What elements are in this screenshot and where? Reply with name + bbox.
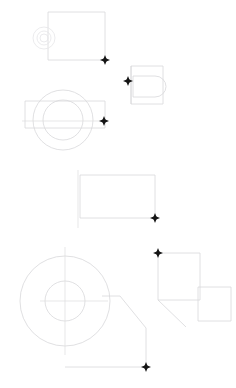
- d-shaped-end-arc: [155, 76, 166, 97]
- view-two-overlapping-rectangles-with-diagonal[interactable]: [158, 253, 231, 327]
- hub-flange-outline: [65, 296, 146, 367]
- snap-point-top-rect-corner[interactable]: [100, 55, 110, 65]
- d-slot-outer-outline: [131, 66, 163, 104]
- view-rectangular-plate-with-concentric-bore[interactable]: [33, 12, 105, 60]
- d-slot-inner-outline: [133, 76, 155, 97]
- plate-outline: [48, 12, 105, 60]
- boss-inner-circle: [43, 100, 83, 140]
- view-large-circle-with-inner-bore-and-tangent-flange[interactable]: [20, 247, 146, 367]
- snap-point-bottom-right-rect-corner[interactable]: [153, 248, 163, 258]
- boss-outer-circle: [33, 90, 93, 150]
- bottom-right-rect-a: [158, 253, 200, 300]
- bottom-right-diagonal-edge: [158, 300, 186, 327]
- view-rectangle-with-d-slot[interactable]: [131, 66, 166, 104]
- view-rectangle-with-vertical-centerline[interactable]: [78, 170, 155, 228]
- bore-inner-circle: [40, 34, 48, 42]
- bottom-right-rect-b: [198, 287, 231, 321]
- snap-point-bottom-flange-corner[interactable]: [141, 362, 151, 372]
- view-rectangle-with-two-concentric-circles[interactable]: [22, 90, 108, 150]
- cad-canvas[interactable]: [0, 0, 236, 388]
- middle-rect-outline: [80, 175, 155, 218]
- snap-point-right-view-corner[interactable]: [123, 76, 133, 86]
- bore-outer-circle: [33, 27, 55, 49]
- snap-point-middle-left-rect-edge[interactable]: [99, 116, 109, 126]
- drawing-surface[interactable]: [0, 0, 236, 388]
- snap-point-middle-rect-corner[interactable]: [150, 213, 160, 223]
- bore-middle-circle: [37, 31, 51, 45]
